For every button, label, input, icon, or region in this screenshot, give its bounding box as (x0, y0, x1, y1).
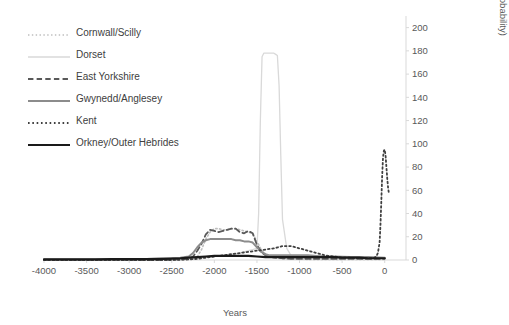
legend-label-cornwall-scilly: Cornwall/Scilly (76, 27, 141, 39)
svg-text:-2500: -2500 (160, 265, 184, 276)
legend-item-dorset: Dorset (28, 44, 208, 66)
svg-text:20: 20 (412, 231, 423, 242)
legend-swatch-gwynedd-anglesey (28, 93, 70, 105)
svg-text:0: 0 (382, 265, 387, 276)
svg-text:160: 160 (412, 68, 428, 79)
svg-text:-3000: -3000 (117, 265, 141, 276)
legend-item-cornwall-scilly: Cornwall/Scilly (28, 22, 208, 44)
svg-text:180: 180 (412, 45, 428, 56)
legend-item-gwynedd-anglesey: Gwynedd/Anglesey (28, 88, 208, 110)
svg-text:-4000: -4000 (32, 265, 56, 276)
legend-swatch-kent (28, 115, 70, 127)
svg-text:40: 40 (412, 208, 423, 219)
svg-text:120: 120 (412, 115, 428, 126)
svg-text:60: 60 (412, 185, 423, 196)
legend-item-orkney-outer-hebrides: Orkney/Outer Hebrides (28, 132, 208, 154)
svg-text:0: 0 (412, 254, 417, 265)
svg-text:80: 80 (412, 161, 423, 172)
legend-swatch-orkney-outer-hebrides (28, 137, 70, 149)
legend-label-gwynedd-anglesey: Gwynedd/Anglesey (76, 93, 162, 105)
chart-legend: Cornwall/Scilly Dorset East Yorkshire Gw… (28, 22, 208, 154)
x-axis-title: Years (0, 307, 470, 318)
svg-text:-1000: -1000 (287, 265, 311, 276)
legend-item-east-yorkshire: East Yorkshire (28, 66, 208, 88)
svg-text:-500: -500 (333, 265, 352, 276)
legend-label-dorset: Dorset (76, 49, 105, 61)
svg-text:-1500: -1500 (245, 265, 269, 276)
svg-text:-2000: -2000 (202, 265, 226, 276)
legend-label-kent: Kent (76, 115, 97, 127)
legend-swatch-dorset (28, 49, 70, 61)
legend-swatch-east-yorkshire (28, 71, 70, 83)
svg-text:100: 100 (412, 138, 428, 149)
legend-label-orkney-outer-hebrides: Orkney/Outer Hebrides (76, 137, 179, 149)
series-line (44, 150, 389, 260)
legend-label-east-yorkshire: East Yorkshire (76, 71, 140, 83)
legend-item-kent: Kent (28, 110, 208, 132)
y-axis-title: No. of cremation burials (summed probabi… (498, 0, 509, 40)
svg-text:200: 200 (412, 22, 428, 33)
legend-swatch-cornwall-scilly (28, 27, 70, 39)
svg-text:140: 140 (412, 92, 428, 103)
svg-text:-3500: -3500 (74, 265, 98, 276)
